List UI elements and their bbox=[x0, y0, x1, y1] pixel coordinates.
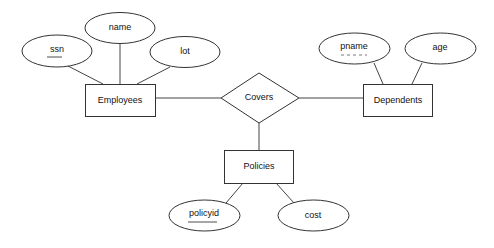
edge-lot-employees bbox=[137, 67, 170, 84]
attribute-lot[interactable]: lot bbox=[150, 37, 220, 68]
entity-dependents-label: Dependents bbox=[374, 95, 423, 105]
attribute-cost-label: cost bbox=[305, 210, 322, 220]
attribute-pname-label: pname bbox=[340, 41, 368, 51]
attribute-cost[interactable]: cost bbox=[278, 200, 349, 231]
attribute-age[interactable]: age bbox=[405, 33, 476, 64]
edge-policies-cost bbox=[276, 183, 294, 203]
attribute-lot-label: lot bbox=[180, 46, 190, 56]
entity-employees[interactable]: Employees bbox=[86, 85, 156, 117]
edge-age-dependents bbox=[412, 63, 422, 84]
attribute-name-label: name bbox=[109, 22, 132, 32]
entity-dependents[interactable]: Dependents bbox=[364, 85, 433, 117]
edge-pname-dependents bbox=[374, 63, 383, 84]
attribute-policyid-label: policyid bbox=[189, 208, 219, 218]
relationship-covers-label: Covers bbox=[245, 92, 274, 102]
attribute-age-label: age bbox=[432, 42, 447, 52]
edge-policies-policyid bbox=[226, 183, 243, 203]
entity-policies-label: Policies bbox=[243, 161, 275, 171]
entity-policies[interactable]: Policies bbox=[225, 151, 294, 184]
attribute-name[interactable]: name bbox=[85, 13, 155, 44]
edge-ssn-employees bbox=[68, 66, 103, 84]
attribute-ssn-label: ssn bbox=[50, 44, 64, 54]
relationship-covers[interactable]: Covers bbox=[221, 73, 299, 123]
attribute-pname[interactable]: pname bbox=[319, 33, 390, 64]
er-diagram-canvas: ssn name lot Employees Covers pname age … bbox=[0, 0, 494, 248]
attribute-policyid[interactable]: policyid bbox=[169, 200, 240, 231]
entity-employees-label: Employees bbox=[98, 95, 143, 105]
attribute-ssn[interactable]: ssn bbox=[22, 35, 92, 67]
